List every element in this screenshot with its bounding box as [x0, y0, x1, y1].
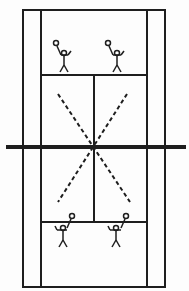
- player-bottom-right: [108, 214, 129, 248]
- player-top-left: [54, 41, 72, 73]
- player-bottom-left: [55, 214, 75, 248]
- player-top-right: [106, 41, 125, 73]
- court-diagram: [0, 0, 189, 291]
